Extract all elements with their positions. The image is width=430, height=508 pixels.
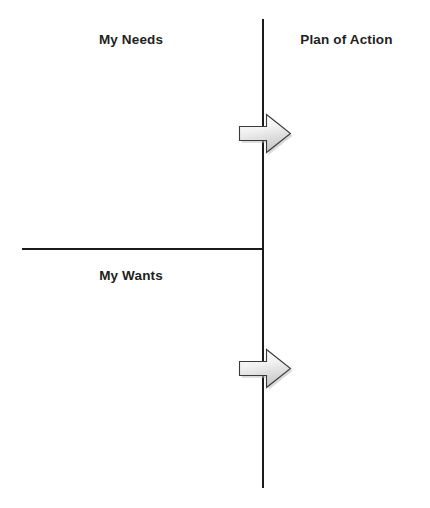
right-arrow-icon bbox=[235, 109, 293, 155]
worksheet-canvas: My Needs Plan of Action My Wants bbox=[0, 0, 430, 508]
label-my-needs: My Needs bbox=[0, 33, 262, 47]
vertical-divider bbox=[262, 19, 264, 488]
label-plan-of-action: Plan of Action bbox=[263, 33, 430, 47]
right-arrow-icon bbox=[235, 344, 293, 390]
arrow-body bbox=[240, 115, 291, 153]
horizontal-divider bbox=[22, 248, 263, 250]
needs-to-plan-arrow bbox=[235, 109, 293, 155]
wants-to-plan-arrow bbox=[235, 344, 293, 390]
arrow-body bbox=[240, 350, 291, 388]
label-my-wants: My Wants bbox=[0, 269, 262, 283]
